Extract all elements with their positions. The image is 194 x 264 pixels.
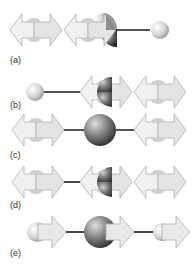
right-arrow: [38, 216, 66, 248]
molecular-assembly-diagram: [0, 0, 194, 264]
label-e: (e): [10, 248, 21, 258]
right-arrow: [162, 216, 190, 248]
label-b: (b): [10, 100, 21, 110]
row-e: [27, 216, 190, 248]
small-sphere: [26, 83, 44, 101]
label-a: (a): [10, 55, 21, 65]
row-b: [26, 76, 186, 108]
double-arrow-unit: [134, 166, 186, 198]
row-a: [10, 13, 169, 47]
double-arrow-unit: [10, 14, 62, 46]
double-arrow-unit: [12, 114, 64, 146]
large-sphere: [84, 114, 116, 146]
label-d: (d): [10, 200, 21, 210]
row-c: [12, 114, 186, 146]
small-sphere: [151, 21, 169, 39]
row-d: [12, 166, 186, 198]
double-arrow-unit: [12, 166, 64, 198]
diagram: (a) (b) (c) (d) (e): [0, 0, 194, 264]
label-c: (c): [10, 150, 21, 160]
double-arrow-unit: [134, 76, 186, 108]
double-arrow-unit: [134, 114, 186, 146]
